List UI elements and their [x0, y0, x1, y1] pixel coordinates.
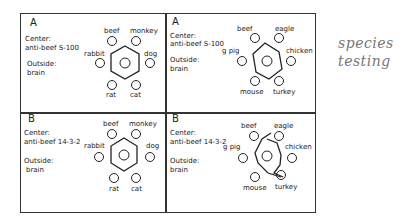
well-label: dog — [144, 50, 157, 59]
well-label: beef — [241, 122, 257, 131]
well-label: dog — [146, 142, 159, 151]
well-label: beef — [104, 27, 120, 36]
well-label: chicken — [285, 143, 312, 152]
well-label: g pig — [223, 143, 241, 152]
well-label: mouse — [240, 88, 264, 97]
well-label: chicken — [286, 47, 313, 56]
well-label: rabbit — [84, 142, 105, 151]
well-label: eagle — [274, 122, 293, 131]
well-label: beef — [103, 120, 119, 129]
well-label: turkey — [275, 183, 297, 192]
well-label: rabbit — [84, 50, 105, 59]
well-label: mouse — [243, 184, 267, 193]
well-label: g pig — [222, 47, 240, 56]
panel-a-mammals: A Center: anti-beef S-100 Outside: brain… — [20, 13, 165, 112]
well-label: beef — [237, 25, 253, 34]
handwritten-annotation-line1: species — [338, 35, 394, 52]
well-label: rat — [109, 185, 119, 194]
well-label: rat — [106, 91, 116, 100]
well-label: cat — [130, 91, 141, 100]
handwritten-annotation-line2: testing — [338, 53, 391, 70]
panel-b-others: B Center: anti-beef 14-3-2 Outside: brai… — [167, 113, 312, 212]
well-label: monkey — [130, 27, 158, 36]
well-label: turkey — [273, 88, 295, 97]
well-label: eagle — [275, 25, 294, 34]
well-label: cat — [131, 185, 142, 194]
panel-b-mammals: B Center: anti-beef 14-3-2 Outside: brai… — [20, 113, 165, 212]
well-label: monkey — [129, 120, 157, 129]
panel-a-others: A Center: anti-beef S-100 Outside: brain… — [167, 13, 312, 112]
